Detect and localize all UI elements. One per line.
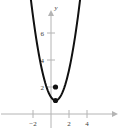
x-tick-label-neg2: −2 [29, 120, 37, 128]
parabola-curve [25, 0, 97, 100]
x-tick-label-4: 4 [85, 120, 89, 128]
y-tick-label-6: 6 [41, 30, 45, 38]
data-point-vertex [53, 98, 58, 103]
y-axis-title: y [53, 4, 58, 12]
y-axis-arrowhead [48, 10, 54, 16]
x-axis-arrowhead [112, 111, 118, 117]
x-tick-label-2: 2 [67, 120, 71, 128]
y-tick-label-2: 2 [41, 84, 45, 92]
data-point-upper [53, 84, 58, 89]
parabola-figure: −2 2 4 2 4 6 y [0, 0, 119, 129]
plot-canvas: −2 2 4 2 4 6 y [0, 0, 119, 129]
